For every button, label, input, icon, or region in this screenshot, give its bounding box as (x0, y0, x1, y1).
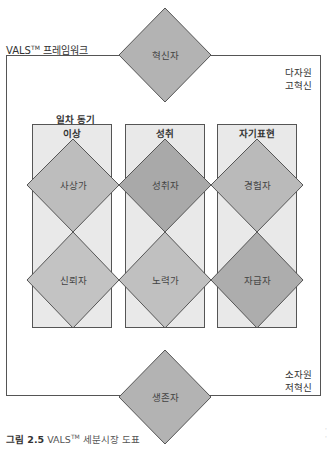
label-achievers: 성취자 (125, 178, 205, 192)
label-believers: 신뢰자 (33, 273, 113, 287)
label-experiencers: 경험자 (217, 178, 297, 192)
margin-marks: ·· (325, 425, 327, 441)
segment-diamonds (0, 0, 332, 454)
label-survivors: 생존자 (125, 390, 205, 404)
label-makers: 자급자 (217, 273, 297, 287)
label-thinkers: 사상가 (33, 178, 113, 192)
figure-caption: 그림 2.5 VALSTM 세분시장 도표 (6, 432, 140, 446)
figure-number: 그림 2.5 (6, 434, 44, 445)
label-strivers: 노력가 (125, 273, 205, 287)
label-innovators: 혁신자 (125, 48, 205, 62)
